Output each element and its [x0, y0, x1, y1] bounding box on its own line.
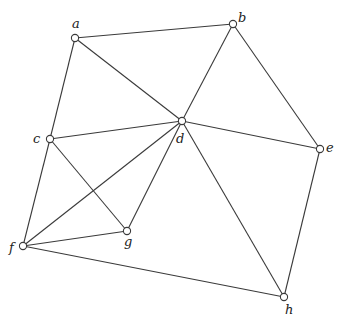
- edge-d-e: [182, 121, 320, 149]
- label-layer: abcdefgh: [8, 10, 334, 317]
- edge-f-h: [23, 246, 284, 297]
- edge-d-g: [127, 121, 182, 231]
- node-f: [19, 242, 26, 249]
- node-h: [280, 293, 287, 300]
- node-label-h: h: [285, 302, 293, 317]
- edge-layer: [23, 24, 320, 297]
- edge-a-d: [75, 38, 182, 121]
- node-c: [46, 135, 53, 142]
- node-label-g: g: [124, 234, 132, 249]
- edge-d-h: [182, 121, 284, 297]
- node-label-a: a: [72, 16, 80, 31]
- node-e: [316, 145, 323, 152]
- edge-c-f: [23, 139, 50, 246]
- node-label-f: f: [8, 240, 16, 255]
- node-label-c: c: [33, 131, 41, 146]
- graph-diagram: abcdefgh: [0, 0, 342, 322]
- node-b: [229, 20, 236, 27]
- edge-b-d: [182, 24, 233, 121]
- node-d: [178, 117, 185, 124]
- node-layer: [19, 20, 323, 300]
- edge-c-g: [50, 139, 127, 231]
- node-label-e: e: [326, 140, 334, 155]
- node-label-b: b: [238, 10, 246, 25]
- edge-e-h: [284, 149, 320, 297]
- edge-a-b: [75, 24, 233, 38]
- edge-a-c: [50, 38, 75, 139]
- node-a: [71, 34, 78, 41]
- node-label-d: d: [176, 131, 184, 146]
- edge-b-e: [233, 24, 320, 149]
